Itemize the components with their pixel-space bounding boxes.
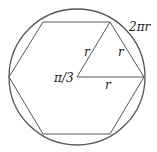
label-side-left: r <box>84 45 91 59</box>
label-side-bottom: r <box>105 78 112 92</box>
label-circumference: 2πr <box>128 20 152 34</box>
hexagon-circle-diagram: 2πr r r r π/3 <box>0 0 157 152</box>
label-angle: π/3 <box>53 71 74 85</box>
hexagon <box>9 22 144 134</box>
label-side-right: r <box>118 45 125 59</box>
